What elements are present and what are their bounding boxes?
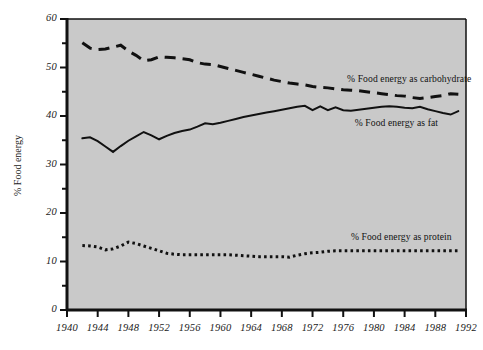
y-axis-tick-label: 30 (31, 158, 57, 169)
chart-canvas (0, 0, 483, 350)
chart-figure: % Food energy 01020304050601940194419481… (0, 0, 483, 350)
series-annotation-1: % Food energy as carbohydrate (347, 73, 471, 84)
y-axis-tick-label: 60 (31, 12, 57, 23)
y-axis-tick-label: 0 (31, 303, 57, 314)
series-annotation-2: % Food energy as fat (355, 117, 438, 128)
y-axis-tick-label: 40 (31, 109, 57, 120)
y-axis-tick-label: 50 (31, 61, 57, 72)
series-annotation-3: % Food energy as protein (351, 231, 452, 242)
x-axis-tick-label: 1992 (446, 322, 483, 333)
plot-background (67, 19, 466, 310)
y-axis-title: % Food energy (12, 116, 23, 216)
y-axis-tick-label: 20 (31, 206, 57, 217)
y-axis-tick-label: 10 (31, 255, 57, 266)
